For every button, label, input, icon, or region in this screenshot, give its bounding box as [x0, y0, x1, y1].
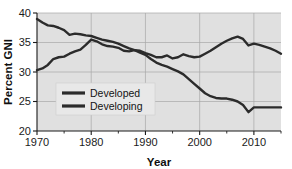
x-axis-ticks [37, 131, 281, 135]
y-tick-label: 35 [19, 36, 31, 48]
legend-label-developing: Developing [90, 100, 143, 112]
x-tick-label: 2000 [187, 136, 211, 148]
chart-container: 2025303540 19701980199020002010 Percent … [0, 0, 292, 169]
chart-legend: Developed Developing [56, 83, 155, 115]
y-axis-ticks [33, 13, 37, 131]
x-tick-label: 1970 [25, 136, 49, 148]
y-tick-label: 20 [19, 125, 31, 137]
x-tick-label: 1980 [79, 136, 103, 148]
y-tick-label: 30 [19, 66, 31, 78]
y-tick-label: 40 [19, 7, 31, 19]
x-tick-label: 1990 [133, 136, 157, 148]
x-axis-tick-labels: 19701980199020002010 [25, 136, 266, 148]
legend-label-developed: Developed [90, 87, 140, 99]
x-tick-label: 2010 [242, 136, 266, 148]
x-axis-title: Year [147, 156, 172, 168]
y-axis-tick-labels: 2025303540 [19, 7, 31, 137]
y-axis-title: Percent GNI [2, 39, 14, 105]
y-tick-label: 25 [19, 95, 31, 107]
line-chart: 2025303540 19701980199020002010 Percent … [0, 0, 292, 169]
